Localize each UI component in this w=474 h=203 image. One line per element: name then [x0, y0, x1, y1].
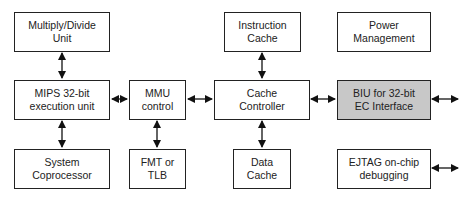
block-mips-execution-unit: MIPS 32-bit execution unit — [14, 80, 110, 120]
block-multiply-divide-unit: Multiply/Divide Unit — [14, 12, 110, 52]
block-label: Power Management — [353, 19, 414, 45]
block-label: System Coprocessor — [32, 156, 92, 182]
block-fmt-or-tlb: FMT or TLB — [129, 149, 186, 189]
block-label: MMU control — [142, 87, 174, 113]
block-label: Multiply/Divide Unit — [28, 19, 96, 45]
block-data-cache: Data Cache — [233, 149, 291, 189]
block-label: FMT or TLB — [141, 156, 175, 182]
block-system-coprocessor: System Coprocessor — [14, 149, 110, 189]
block-label: Data Cache — [247, 156, 277, 182]
block-label: Instruction Cache — [238, 19, 286, 45]
block-label: BIU for 32-bit EC Interface — [353, 87, 415, 113]
block-biu-ec-interface: BIU for 32-bit EC Interface — [337, 80, 431, 120]
block-instruction-cache: Instruction Cache — [224, 12, 301, 52]
block-label: EJTAG on-chip debugging — [349, 156, 419, 182]
block-ejtag-debugging: EJTAG on-chip debugging — [337, 149, 431, 189]
block-label: MIPS 32-bit execution unit — [30, 87, 95, 113]
block-cache-controller: Cache Controller — [214, 80, 310, 120]
block-label: Cache Controller — [239, 87, 285, 113]
block-power-management: Power Management — [337, 12, 431, 52]
block-mmu-control: MMU control — [129, 80, 186, 120]
